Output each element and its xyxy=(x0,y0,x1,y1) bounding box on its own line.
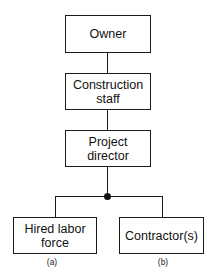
sublabel-b: (b) xyxy=(158,257,168,267)
connector-staff-director xyxy=(107,110,108,130)
node-contractors-label: Contractor(s) xyxy=(125,229,198,243)
node-hired-labor-force: Hired labor force xyxy=(13,217,97,254)
node-contractors: Contractor(s) xyxy=(119,217,204,254)
sublabel-a: (a) xyxy=(47,257,57,267)
connector-branch-left xyxy=(55,196,56,217)
connector-owner-staff xyxy=(107,53,108,73)
node-owner-label: Owner xyxy=(90,27,127,41)
connector-director-junction xyxy=(107,167,108,196)
node-hired-labor-force-label: Hired labor force xyxy=(24,222,85,250)
node-construction-staff: Construction staff xyxy=(65,73,151,110)
connector-branch-right xyxy=(162,196,163,217)
node-project-director: Project director xyxy=(65,130,151,167)
junction-dot xyxy=(104,193,111,200)
node-construction-staff-label: Construction staff xyxy=(73,78,143,106)
node-project-director-label: Project director xyxy=(87,135,129,163)
node-owner: Owner xyxy=(65,15,151,53)
